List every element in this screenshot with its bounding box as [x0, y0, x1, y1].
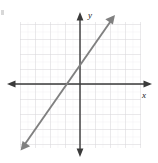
edge-artifact-mark — [1, 10, 4, 15]
coordinate-plane-graphic: y x — [0, 0, 158, 163]
y-axis-label: y — [87, 10, 92, 20]
graph-figure: y x — [0, 0, 158, 163]
x-axis-label: x — [141, 90, 146, 100]
